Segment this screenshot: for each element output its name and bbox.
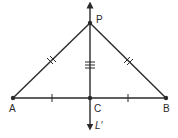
label-b: B	[163, 103, 170, 114]
label-p: P	[96, 14, 103, 25]
segment-pa	[13, 23, 90, 98]
point-c	[88, 96, 92, 100]
point-p	[88, 21, 92, 25]
segment-pb	[90, 23, 166, 98]
label-c: C	[94, 103, 101, 114]
label-l-prime: L′	[95, 120, 104, 131]
label-a: A	[9, 103, 16, 114]
point-a	[11, 96, 15, 100]
perpendicular-bisector-diagram: P A C B L′	[0, 0, 178, 138]
point-b	[164, 96, 168, 100]
